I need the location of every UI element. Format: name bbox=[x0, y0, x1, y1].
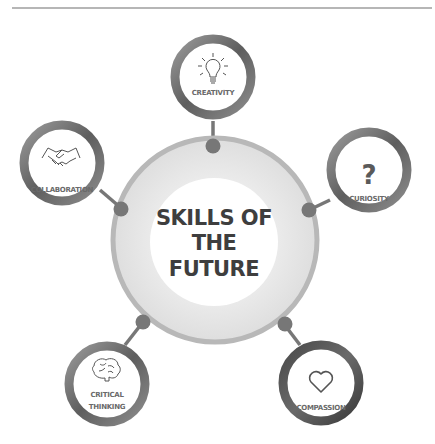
center-title-line-1: SKILLS OF bbox=[156, 206, 272, 230]
label-collaboration: COLLABORATION bbox=[31, 186, 94, 194]
center-title-line-3: FUTURE bbox=[169, 257, 259, 281]
label-critical-thinking-line-2: THINKING bbox=[89, 403, 126, 411]
skills-diagram: SKILLS OF THE FUTURE CREATIVITY bbox=[0, 0, 435, 444]
skill-collaboration: COLLABORATION bbox=[24, 125, 100, 201]
skill-compassion: COMPASSION bbox=[283, 345, 359, 421]
dot-creativity bbox=[206, 139, 221, 154]
skill-critical-thinking: CRITICAL THINKING bbox=[69, 346, 145, 422]
label-critical-thinking-line-1: CRITICAL bbox=[90, 391, 124, 399]
label-compassion: COMPASSION bbox=[296, 404, 346, 412]
label-curiosity: CURIOSITY bbox=[349, 195, 390, 203]
center-hub: SKILLS OF THE FUTURE bbox=[113, 138, 317, 342]
dot-curiosity bbox=[302, 203, 317, 218]
dot-collaboration bbox=[114, 202, 129, 217]
dot-compassion bbox=[278, 317, 293, 332]
label-creativity: CREATIVITY bbox=[192, 89, 236, 97]
skill-curiosity: ? CURIOSITY bbox=[331, 132, 407, 208]
skill-creativity: CREATIVITY bbox=[175, 39, 251, 115]
question-mark-icon: ? bbox=[361, 160, 376, 190]
dot-critical-thinking bbox=[136, 315, 151, 330]
center-title-line-2: THE bbox=[192, 231, 237, 255]
